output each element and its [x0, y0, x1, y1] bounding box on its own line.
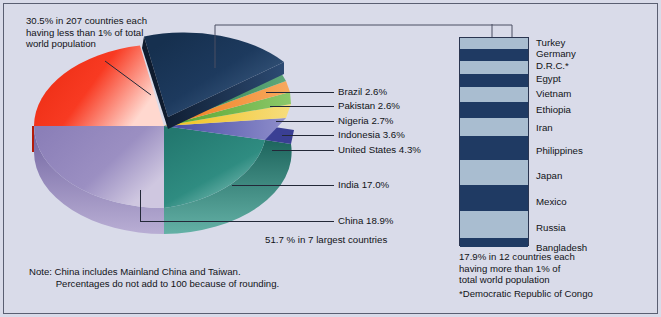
panel-label-iran: Iran: [536, 122, 553, 133]
band-japan: [460, 160, 528, 185]
country-label-list: Turkey Germany D.R.C.* Egypt Vietnam Eth…: [536, 37, 660, 246]
band-philippines: [460, 136, 528, 160]
leader-line-other-countries: [105, 61, 155, 97]
label-brazil: Brazil 2.6%: [338, 86, 387, 97]
panel-label-mexico: Mexico: [536, 196, 567, 207]
panel-label-germany: Germany: [536, 48, 576, 59]
panel-label-japan: Japan: [536, 170, 562, 181]
band-vietnam: [460, 87, 528, 102]
leader-line-india: [232, 185, 334, 186]
band-drc: [460, 61, 528, 74]
panel-label-philippines: Philippines: [536, 145, 583, 156]
panel-label-ethiopia: Ethiopia: [536, 104, 571, 115]
panel-footnote: *Democratic Republic of Congo: [459, 288, 593, 299]
leader-line-united-states: [272, 150, 334, 151]
leader-line-nigeria: [276, 121, 334, 122]
leader-line-china-horizontal: [140, 221, 334, 222]
panel-label-russia: Russia: [536, 222, 566, 233]
panel-label-drc: D.R.C.*: [536, 60, 569, 71]
label-china: China 18.9%: [338, 215, 393, 226]
panel-note: 17.9% in 12 countries each having more t…: [459, 251, 575, 286]
leader-line-china-vertical: [140, 190, 141, 221]
leader-line-indonesia: [282, 135, 334, 136]
callout-other-countries: 30.5% in 207 countries each having less …: [26, 15, 147, 50]
panel-label-vietnam: Vietnam: [536, 88, 571, 99]
panel-connector: [491, 24, 495, 38]
band-russia: [460, 211, 528, 238]
country-bar-panel: [459, 37, 529, 246]
label-nigeria: Nigeria 2.7%: [338, 115, 393, 126]
infographic-page: 30.5% in 207 countries each having less …: [0, 0, 661, 317]
label-united-states: United States 4.3%: [338, 144, 421, 155]
slice-china: [34, 126, 164, 208]
annotation-seven-largest: 51.7 % in 7 largest countries: [265, 234, 387, 246]
band-mexico: [460, 185, 528, 211]
band-ethiopia: [460, 102, 528, 118]
label-india: India 17.0%: [338, 179, 389, 190]
band-iran: [460, 118, 528, 136]
panel-label-egypt: Egypt: [536, 73, 561, 84]
chart-frame: 30.5% in 207 countries each having less …: [3, 3, 658, 314]
leader-line-pakistan: [270, 106, 334, 107]
chart-note: Note: China includes Mainland China and …: [29, 266, 279, 289]
leader-line-brazil: [266, 92, 334, 93]
panel-label-turkey: Turkey: [536, 37, 565, 48]
band-egypt: [460, 74, 528, 87]
band-bangladesh: [460, 238, 528, 247]
band-germany: [460, 49, 528, 61]
band-turkey: [460, 38, 528, 49]
label-pakistan: Pakistan 2.6%: [338, 100, 400, 111]
label-indonesia: Indonesia 3.6%: [338, 129, 405, 140]
